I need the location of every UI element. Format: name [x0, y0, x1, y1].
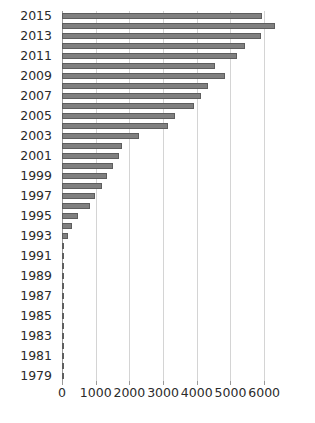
x-axis-label-3000: 3000	[147, 386, 179, 400]
bar-row	[62, 373, 64, 380]
y-axis-label-1981: 1981	[20, 350, 52, 362]
bar-row	[62, 33, 261, 40]
y-axis-label-1999: 1999	[20, 170, 52, 182]
bar-1988	[62, 283, 64, 290]
bar-row	[62, 293, 64, 300]
bar-2009	[62, 73, 225, 80]
y-axis-label-1997: 1997	[20, 190, 52, 202]
bar-row	[62, 353, 64, 360]
y-axis-label-2013: 2013	[20, 30, 52, 42]
y-axis-label-2001: 2001	[20, 150, 52, 162]
y-axis-labels: 2015201320112009200720052003200119991997…	[0, 11, 58, 381]
bar-row	[62, 183, 102, 190]
bar-row	[62, 243, 64, 250]
x-axis-label-5000: 5000	[215, 386, 247, 400]
x-axis-label-0: 0	[58, 386, 66, 400]
x-axis-labels: 0100020003000400050006000	[0, 386, 315, 406]
bar-row	[62, 43, 245, 50]
bar-row	[62, 123, 168, 130]
bar-row	[62, 283, 64, 290]
bar-2011	[62, 53, 237, 60]
bar-row	[62, 233, 68, 240]
bar-1982	[62, 343, 64, 350]
bar-row	[62, 53, 237, 60]
bar-row	[62, 343, 64, 350]
bar-1999	[62, 173, 107, 180]
y-axis-label-1979: 1979	[20, 370, 52, 382]
bar-row	[62, 63, 215, 70]
bar-1996	[62, 203, 90, 210]
bar-1986	[62, 303, 64, 310]
bar-1989	[62, 273, 64, 280]
bar-row	[62, 273, 64, 280]
y-axis-label-2015: 2015	[20, 10, 52, 22]
bar-row	[62, 113, 175, 120]
y-axis-label-1989: 1989	[20, 270, 52, 282]
bar-1984	[62, 323, 64, 330]
bar-row	[62, 23, 275, 30]
bar-1985	[62, 313, 64, 320]
y-axis-label-2011: 2011	[20, 50, 52, 62]
y-axis-label-1987: 1987	[20, 290, 52, 302]
bar-row	[62, 173, 107, 180]
bar-2002	[62, 143, 122, 150]
bar-row	[62, 223, 72, 230]
bar-row	[62, 73, 225, 80]
bar-row	[62, 333, 64, 340]
y-axis-label-1985: 1985	[20, 310, 52, 322]
plot-area	[62, 11, 281, 381]
bar-row	[62, 323, 64, 330]
bar-2012	[62, 43, 245, 50]
y-axis-label-1995: 1995	[20, 210, 52, 222]
y-axis-label-2003: 2003	[20, 130, 52, 142]
bar-1990	[62, 263, 64, 270]
bar-1979	[62, 373, 64, 380]
bar-chart: 2015201320112009200720052003200119991997…	[0, 0, 315, 423]
y-axis-label-1983: 1983	[20, 330, 52, 342]
bar-2008	[62, 83, 208, 90]
bar-row	[62, 163, 113, 170]
bar-2005	[62, 113, 175, 120]
bar-series	[62, 11, 281, 381]
y-axis-label-1991: 1991	[20, 250, 52, 262]
y-axis-label-2005: 2005	[20, 110, 52, 122]
bar-2001	[62, 153, 119, 160]
x-axis-label-2000: 2000	[113, 386, 145, 400]
bar-row	[62, 313, 64, 320]
bar-2015	[62, 13, 262, 20]
x-axis-label-4000: 4000	[181, 386, 213, 400]
bar-2006	[62, 103, 194, 110]
bar-1997	[62, 193, 95, 200]
bar-1998	[62, 183, 102, 190]
bar-2007	[62, 93, 201, 100]
bar-1980	[62, 363, 64, 370]
bar-2014	[62, 23, 275, 30]
y-axis-label-1993: 1993	[20, 230, 52, 242]
bar-1987	[62, 293, 64, 300]
bar-2010	[62, 63, 215, 70]
bar-row	[62, 143, 122, 150]
bar-row	[62, 363, 64, 370]
bar-2013	[62, 33, 261, 40]
bar-row	[62, 83, 208, 90]
bar-row	[62, 93, 201, 100]
y-axis-label-2009: 2009	[20, 70, 52, 82]
x-axis-label-1000: 1000	[80, 386, 112, 400]
bar-1981	[62, 353, 64, 360]
bar-row	[62, 213, 78, 220]
y-axis-label-2007: 2007	[20, 90, 52, 102]
bar-row	[62, 203, 90, 210]
bar-1994	[62, 223, 72, 230]
bar-row	[62, 263, 64, 270]
bar-row	[62, 13, 262, 20]
bar-row	[62, 133, 139, 140]
bar-1991	[62, 253, 64, 260]
bar-1995	[62, 213, 78, 220]
x-axis-label-6000: 6000	[248, 386, 280, 400]
bar-row	[62, 193, 95, 200]
bar-1993	[62, 233, 68, 240]
bar-row	[62, 153, 119, 160]
bar-row	[62, 303, 64, 310]
bar-1992	[62, 243, 64, 250]
bar-2000	[62, 163, 113, 170]
